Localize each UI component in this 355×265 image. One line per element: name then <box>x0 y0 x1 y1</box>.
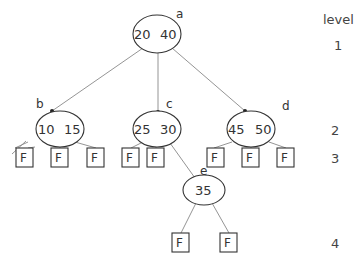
edge-d-leaf6 <box>214 142 232 148</box>
edge-e-leaf9 <box>181 203 196 233</box>
edge-d-leaf8 <box>269 142 286 148</box>
node-b: 10 15 b <box>36 97 84 147</box>
leaf-row-level-3: F F F F F F F F <box>16 148 294 167</box>
leaf-label: F <box>281 151 288 165</box>
node-b-key-2: 15 <box>64 122 81 137</box>
node-c: 25 30 c <box>133 97 181 147</box>
level-1-label: 1 <box>334 38 342 53</box>
leaf-label: F <box>55 151 62 165</box>
leaf-label: F <box>151 151 158 165</box>
node-c-key-1: 25 <box>134 122 151 137</box>
leaf-label: F <box>246 151 253 165</box>
leaf-label: F <box>224 236 231 250</box>
node-a-key-1: 20 <box>134 27 151 42</box>
leaf-label: F <box>91 151 98 165</box>
level-3-label: 3 <box>331 151 339 166</box>
node-d: 45 50 d <box>227 99 290 147</box>
leaf-row-level-4: F F <box>172 233 237 252</box>
node-e-label: e <box>200 164 207 178</box>
level-4-label: 4 <box>331 236 339 251</box>
edge-a-b <box>52 48 143 111</box>
tree-diagram: 20 40 a 10 15 b 25 30 c 45 50 d 35 e F F… <box>0 0 355 265</box>
edge-c-e <box>170 143 195 178</box>
edge-e-leaf10 <box>212 203 229 233</box>
node-a-label: a <box>176 7 183 21</box>
leaf-label: F <box>126 151 133 165</box>
level-header: level <box>323 12 354 27</box>
node-c-label: c <box>166 97 173 111</box>
level-column: level 1 2 3 4 <box>323 12 354 251</box>
level-2-label: 2 <box>331 123 339 138</box>
node-d-key-1: 45 <box>228 122 245 137</box>
node-d-key-2: 50 <box>255 122 272 137</box>
node-a-key-2: 40 <box>160 27 177 42</box>
node-a: 20 40 a <box>133 7 183 53</box>
leaf-label: F <box>20 151 27 165</box>
node-b-key-1: 10 <box>38 122 55 137</box>
leaf-label: F <box>176 236 183 250</box>
leaf-label: F <box>211 151 218 165</box>
edge-a-d <box>172 48 245 111</box>
node-e-key-1: 35 <box>195 183 212 198</box>
edge-b-leaf3 <box>75 142 96 148</box>
node-b-label: b <box>36 97 44 111</box>
node-d-label: d <box>282 99 290 113</box>
node-c-key-2: 30 <box>160 122 177 137</box>
